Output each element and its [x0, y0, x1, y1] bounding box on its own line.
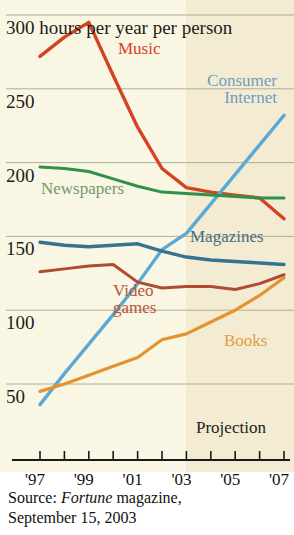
series-label-consumer-internet: Consumer Internet: [207, 72, 277, 107]
series-label-magazines: Magazines: [190, 228, 264, 245]
series-line-video-games: [40, 264, 284, 289]
source-publication: Fortune: [61, 489, 113, 506]
y-tick-label-100: 100: [6, 313, 35, 332]
source-note: Source: Fortune magazine, September 15, …: [8, 488, 288, 529]
plot-area: 300 hours per year per person25020015010…: [0, 0, 294, 472]
y-tick-label-150: 150: [6, 239, 35, 258]
source-suffix: magazine,: [112, 489, 181, 506]
series-label-music: Music: [118, 40, 161, 57]
y-tick-label-250: 250: [6, 92, 35, 111]
y-tick-label-300: 300 hours per year per person: [6, 18, 232, 37]
source-date: September 15, 2003: [8, 509, 136, 526]
chart-figure: 300 hours per year per person25020015010…: [0, 0, 294, 535]
x-axis-ticks-svg: [0, 450, 294, 472]
x-tick-label-2005: '05: [220, 470, 240, 490]
series-label-books: Books: [224, 332, 267, 349]
x-tick-label-2003: '03: [171, 470, 191, 490]
x-tick-label-2007: '07: [269, 470, 289, 490]
x-tick-label-1997: '97: [25, 470, 45, 490]
projection-label: Projection: [196, 418, 266, 438]
series-label-video-games: Video games: [113, 282, 156, 317]
y-tick-label-200: 200: [6, 166, 35, 185]
series-label-newspapers: Newspapers: [41, 180, 124, 197]
x-tick-label-2001: '01: [123, 470, 143, 490]
series-line-consumer-internet: [40, 115, 284, 404]
y-tick-label-50: 50: [6, 387, 25, 406]
x-tick-label-1999: '99: [74, 470, 94, 490]
source-prefix: Source:: [8, 489, 61, 506]
